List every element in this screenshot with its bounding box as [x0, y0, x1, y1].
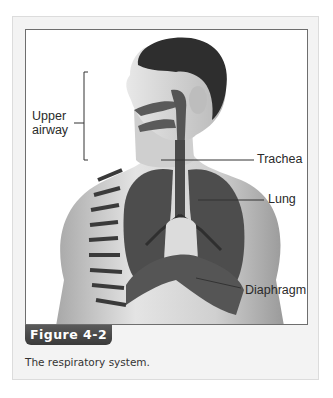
label-upper-airway-line1: Upper [32, 109, 66, 123]
figure-frame [25, 29, 308, 325]
label-diaphragm: Diaphragm [245, 283, 306, 297]
figure-number-tab: Figure 4-2 [25, 325, 112, 345]
label-trachea: Trachea [257, 152, 302, 166]
figure-caption: The respiratory system. [25, 356, 150, 368]
label-lung: Lung [268, 192, 296, 206]
respiratory-system-illustration [26, 30, 308, 325]
label-upper-airway-line2: airway [32, 123, 68, 137]
